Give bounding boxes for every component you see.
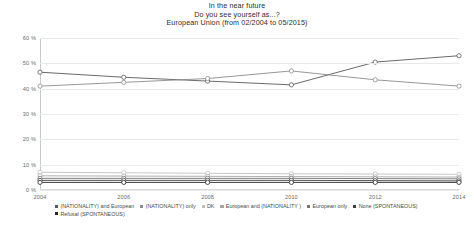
series-line — [40, 56, 459, 85]
x-axis-tick-label: 2014 — [453, 194, 466, 200]
plot-inner: 0 %10 %20 %30 %40 %50 %60 %2004200620082… — [40, 38, 459, 190]
legend-item[interactable]: DK — [202, 203, 215, 211]
y-axis-tick-label: 60 % — [23, 35, 36, 41]
y-axis-tick-label: 30 % — [23, 111, 36, 117]
legend-item[interactable]: (NATIONALITY) only — [140, 203, 195, 211]
chart-legend: (NATIONALITY) and European(NATIONALITY) … — [55, 203, 470, 218]
gridline — [40, 114, 459, 115]
x-axis-tick-label: 2012 — [369, 194, 382, 200]
gridline — [40, 190, 459, 191]
chart-title: In the near future Do you see yourself a… — [0, 2, 474, 28]
legend-item-label: European only — [313, 203, 348, 209]
plot-area: 0 %10 %20 %30 %40 %50 %60 %2004200620082… — [40, 38, 459, 190]
legend-item[interactable]: Refusal (SPONTANEOUS) — [55, 211, 125, 219]
legend-swatch-icon — [55, 212, 58, 215]
x-axis-tick-label: 2010 — [285, 194, 298, 200]
legend-swatch-icon — [307, 205, 310, 208]
data-point-marker — [373, 180, 377, 184]
chart-container: In the near future Do you see yourself a… — [0, 0, 474, 226]
data-point-marker — [38, 84, 42, 88]
data-point-marker — [289, 180, 293, 184]
series-line — [40, 178, 459, 179]
series-line — [40, 71, 459, 86]
data-point-marker — [122, 180, 126, 184]
legend-item[interactable]: None (SPONTANEOUS) — [353, 203, 417, 211]
y-axis-tick-label: 40 % — [23, 86, 36, 92]
data-point-marker — [457, 180, 461, 184]
data-point-marker — [122, 75, 126, 79]
gridline — [40, 38, 459, 39]
gridline — [40, 89, 459, 90]
legend-item[interactable]: (NATIONALITY) and European — [55, 203, 134, 211]
data-point-marker — [289, 83, 293, 87]
y-axis-tick-label: 20 % — [23, 136, 36, 142]
legend-swatch-icon — [220, 205, 223, 208]
legend-swatch-icon — [140, 205, 143, 208]
gridline — [40, 139, 459, 140]
data-point-marker — [38, 180, 42, 184]
y-axis-tick-label: 50 % — [23, 60, 36, 66]
x-axis-tick-label: 2006 — [117, 194, 130, 200]
legend-item[interactable]: European and (NATIONALITY ) — [220, 203, 301, 211]
x-axis-tick-label: 2004 — [34, 194, 47, 200]
legend-row-2: Refusal (SPONTANEOUS) — [55, 211, 470, 219]
x-axis-tick-label: 2008 — [201, 194, 214, 200]
series-line — [40, 172, 459, 174]
series-line — [40, 180, 459, 181]
data-point-marker — [206, 180, 210, 184]
data-point-marker — [457, 54, 461, 58]
y-axis-tick-label: 10 % — [23, 162, 36, 168]
legend-item-label: Refusal (SPONTANEOUS) — [60, 211, 124, 217]
series-line — [40, 176, 459, 177]
gridline — [40, 63, 459, 64]
gridline — [40, 165, 459, 166]
legend-swatch-icon — [202, 205, 205, 208]
data-point-marker — [122, 80, 126, 84]
data-point-marker — [373, 78, 377, 82]
data-point-marker — [206, 76, 210, 80]
legend-swatch-icon — [353, 205, 356, 208]
legend-item-label: DK — [207, 203, 215, 209]
data-point-marker — [457, 84, 461, 88]
legend-item[interactable]: European only — [307, 203, 347, 211]
data-point-marker — [289, 69, 293, 73]
legend-item-label: (NATIONALITY) and European — [60, 203, 134, 209]
title-line-3: European Union (from 02/2004 to 05/2015) — [0, 19, 474, 28]
legend-swatch-icon — [55, 205, 58, 208]
legend-item-label: (NATIONALITY) only — [146, 203, 196, 209]
legend-row-1: (NATIONALITY) and European(NATIONALITY) … — [55, 203, 470, 211]
data-point-marker — [38, 70, 42, 74]
legend-item-label: None (SPONTANEOUS) — [359, 203, 418, 209]
y-axis-tick-label: 0 % — [26, 187, 36, 193]
legend-item-label: European and (NATIONALITY ) — [226, 203, 301, 209]
